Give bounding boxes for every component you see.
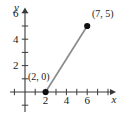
y-axis-name-label: y [13,1,19,13]
y-tick-label-2: 2 [13,59,19,71]
plot-svg: 2 4 6 6 4 2 y x (2, 0) (7, 5) [0,0,123,120]
data-series-segment [46,26,88,92]
x-tick-label-2: 2 [43,94,49,106]
line-segment [46,26,88,92]
x-tick-label-4: 4 [64,94,70,106]
y-tick-label-4: 4 [13,33,19,45]
point-label-7-5: (7, 5) [92,8,114,20]
point-label-2-0: (2, 0) [28,71,50,83]
x-axis-name-label: x [111,93,117,105]
x-tick-labels: 2 4 6 [43,94,91,106]
point-marker-7-5 [84,23,90,29]
x-tick-label-6: 6 [84,94,90,106]
y-axis-arrowhead [22,7,28,13]
coordinate-plane-figure: 2 4 6 6 4 2 y x (2, 0) (7, 5) [0,0,123,120]
y-tick-labels: 6 4 2 [13,7,19,72]
